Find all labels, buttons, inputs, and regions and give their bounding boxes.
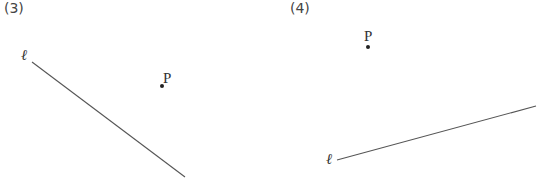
line-3-label: ℓ [21, 46, 27, 64]
panel-3-label: (3) [4, 0, 24, 16]
panel-4-label: (4) [290, 0, 310, 16]
line-4-label: ℓ [326, 150, 332, 168]
point-4-label: P [364, 28, 372, 45]
line-l-panel-4 [337, 106, 536, 160]
point-p-panel-4 [366, 45, 370, 49]
diagram-canvas [0, 0, 548, 187]
point-3-label: P [163, 70, 171, 87]
